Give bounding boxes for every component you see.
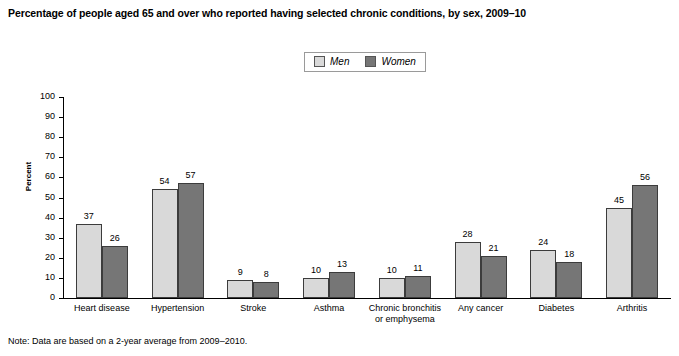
bar-pair: 5457 <box>140 97 216 298</box>
chart-note: Note: Data are based on a 2-year average… <box>8 336 247 346</box>
y-axis-tick-label: 10 <box>27 273 55 282</box>
bar-value-label: 24 <box>538 238 548 247</box>
bar-group: 5457 <box>140 97 216 298</box>
bar-value-label: 56 <box>640 173 650 182</box>
x-axis-category-label: Heart disease <box>64 303 140 325</box>
x-axis-category-label: Asthma <box>291 303 367 325</box>
bar-women[interactable]: 21 <box>481 256 507 298</box>
y-axis-tick-label: 100 <box>27 92 55 101</box>
bar-men[interactable]: 28 <box>455 242 481 298</box>
bar-group: 1011 <box>367 97 443 298</box>
bar-value-label: 18 <box>564 250 574 259</box>
bar-women[interactable]: 8 <box>253 282 279 298</box>
bar-pair: 1013 <box>291 97 367 298</box>
bar-pair: 4556 <box>594 97 670 298</box>
x-axis-category-label: Hypertension <box>140 303 216 325</box>
x-axis-category-label: Stroke <box>216 303 292 325</box>
bar-women[interactable]: 56 <box>632 185 658 298</box>
legend-entry-men: Men <box>314 56 349 67</box>
bar-value-label: 28 <box>463 230 473 239</box>
bar-pair: 3726 <box>64 97 140 298</box>
bar-men[interactable]: 10 <box>303 278 329 298</box>
y-axis-tick-label: 40 <box>27 213 55 222</box>
x-axis-category-line: Asthma <box>291 303 367 314</box>
legend-entry-women: Women <box>365 56 415 67</box>
bar-value-label: 13 <box>337 260 347 269</box>
bar-men[interactable]: 37 <box>76 224 102 298</box>
bar-value-label: 54 <box>160 177 170 186</box>
bar-pair: 2821 <box>443 97 519 298</box>
y-axis-tick-label: 0 <box>27 293 55 302</box>
x-axis-category-line: Stroke <box>216 303 292 314</box>
bar-value-label: 37 <box>84 212 94 221</box>
source-line-clipped <box>150 350 670 356</box>
bar-value-label: 57 <box>186 171 196 180</box>
legend-swatch-men-icon <box>314 56 325 67</box>
bar-pair: 1011 <box>367 97 443 298</box>
bar-women[interactable]: 18 <box>556 262 582 298</box>
y-axis-tick-label: 70 <box>27 152 55 161</box>
bar-men[interactable]: 10 <box>379 278 405 298</box>
bar-men[interactable]: 54 <box>152 189 178 298</box>
x-axis-category-label: Chronic bronchitisor emphysema <box>367 303 443 325</box>
bar-group: 3726 <box>64 97 140 298</box>
bar-value-label: 9 <box>238 268 243 277</box>
bar-value-label: 10 <box>387 266 397 275</box>
bar-value-label: 26 <box>110 234 120 243</box>
chart-legend: Men Women <box>304 52 426 72</box>
x-axis-category-label: Any cancer <box>443 303 519 325</box>
bar-group: 2821 <box>443 97 519 298</box>
bar-value-label: 8 <box>264 270 269 279</box>
bar-women[interactable]: 57 <box>178 183 204 298</box>
x-axis-category-line: Heart disease <box>64 303 140 314</box>
y-axis-tick-label: 30 <box>27 233 55 242</box>
x-axis-category-label: Diabetes <box>519 303 595 325</box>
x-axis-category-line: or emphysema <box>367 314 443 325</box>
legend-label-women: Women <box>381 57 415 67</box>
bar-women[interactable]: 11 <box>405 276 431 298</box>
bar-men[interactable]: 24 <box>530 250 556 298</box>
x-axis-category-line: Arthritis <box>594 303 670 314</box>
bar-group: 98 <box>216 97 292 298</box>
bar-pair: 2418 <box>519 97 595 298</box>
y-axis-tick-label: 60 <box>27 172 55 181</box>
bar-women[interactable]: 26 <box>102 246 128 298</box>
bar-group: 4556 <box>594 97 670 298</box>
y-axis-tick-label: 50 <box>27 193 55 202</box>
bar-women[interactable]: 13 <box>329 272 355 298</box>
bar-group: 1013 <box>291 97 367 298</box>
bar-value-label: 11 <box>413 264 422 273</box>
bar-value-label: 10 <box>311 266 321 275</box>
y-axis-tick-label: 80 <box>27 132 55 141</box>
chart-title: Percentage of people aged 65 and over wh… <box>8 7 668 19</box>
bar-value-label: 21 <box>489 244 499 253</box>
x-axis-category-line: Hypertension <box>140 303 216 314</box>
bar-men[interactable]: 9 <box>227 280 253 298</box>
legend-label-men: Men <box>330 57 349 67</box>
x-axis-category-line: Any cancer <box>443 303 519 314</box>
x-axis-category-line: Diabetes <box>519 303 595 314</box>
x-axis-categories: Heart diseaseHypertensionStrokeAsthmaChr… <box>64 303 670 325</box>
bar-men[interactable]: 45 <box>606 208 632 298</box>
y-axis-tick-label: 20 <box>27 253 55 262</box>
bar-pair: 98 <box>216 97 292 298</box>
y-axis-tick-label: 90 <box>27 112 55 121</box>
bar-group: 2418 <box>519 97 595 298</box>
x-axis-category-line: Chronic bronchitis <box>367 303 443 314</box>
legend-swatch-women-icon <box>365 56 376 67</box>
bar-groups: 372654579810131011282124184556 <box>64 97 670 298</box>
x-axis-category-label: Arthritis <box>594 303 670 325</box>
bar-value-label: 45 <box>614 196 624 205</box>
